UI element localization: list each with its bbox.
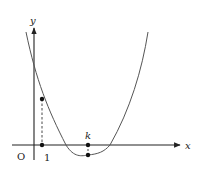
point-on-curve-at-1 [40, 97, 44, 101]
point-on-axis-at-1 [40, 143, 44, 147]
minimum-point-at-k [86, 153, 90, 157]
point-on-axis-at-k [86, 143, 90, 147]
x-axis-label: x [185, 140, 191, 151]
tick-label-k: k [85, 130, 91, 141]
tick-label-1: 1 [44, 152, 50, 163]
origin-label: O [17, 151, 25, 162]
y-axis-label: y [29, 15, 36, 26]
function-graph: y x O 1 k [0, 0, 199, 170]
